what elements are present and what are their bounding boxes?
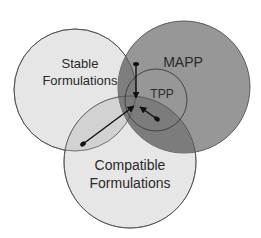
tpp-label: TPP: [150, 87, 173, 101]
stable-label-line2: Formulations: [42, 73, 118, 88]
compatible-label-line2: Formulations: [90, 175, 171, 191]
stable-label-line1: Stable: [62, 56, 99, 71]
compatible-label-line1: Compatible: [95, 157, 166, 173]
mapp-label: MAPP: [163, 54, 203, 70]
arrow-tail-dot: [133, 62, 139, 66]
venn-diagram: Stable Formulations MAPP TPP Compatible …: [0, 0, 261, 238]
